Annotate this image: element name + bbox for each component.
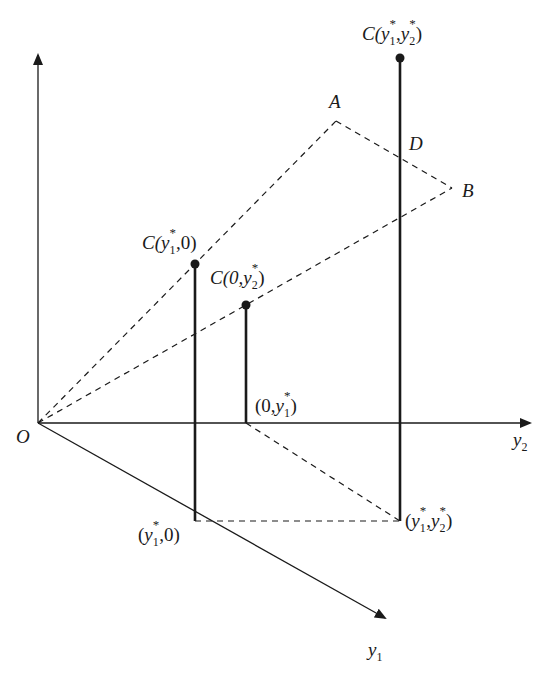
point-c-y1star-y2star-dot	[396, 54, 405, 63]
label-0-y1star: (0,y1*)	[255, 388, 297, 420]
dashed-line-origin-to-a	[38, 121, 336, 423]
origin-label: O	[16, 426, 30, 447]
dashed-line-a-to-b	[336, 121, 452, 188]
point-c-y1star-0-dot	[191, 260, 200, 269]
label-c-y1star-y2star: C(y1*,y2*)	[362, 16, 422, 48]
label-c-y1star-0: C(y1*,0)	[142, 225, 197, 257]
point-b-label: B	[462, 180, 474, 201]
label-y1star-y2star: (y1*,y2*)	[405, 503, 452, 535]
label-c-0-y2star: C(0,y2*)	[210, 260, 265, 292]
y2-axis-label: y2	[511, 429, 527, 454]
point-c-0-y2star-dot	[242, 301, 251, 310]
y1-axis-label: y1	[366, 639, 382, 664]
point-d-label: D	[408, 133, 423, 154]
dashed-line-base-0y1-y1y2	[246, 423, 400, 521]
label-y1star-0: (y1*,0)	[138, 517, 180, 549]
point-a-label: A	[327, 91, 341, 112]
cost-function-diagram: O y2 y1 A D B C(y1*,y2*) C(y1*,0) C(0,y2…	[0, 0, 551, 679]
